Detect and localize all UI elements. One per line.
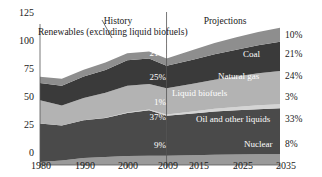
series-label-natural-gas: Natural gas <box>218 72 259 81</box>
right-pct-oil-and-other-liquids: 33% <box>285 115 302 125</box>
series-label-coal: Coal <box>243 50 260 59</box>
right-pct-natural-gas: 24% <box>285 72 302 82</box>
left-pct-nuclear: 9% <box>154 141 166 150</box>
x-tick-2015: 2015 <box>189 161 209 171</box>
right-pct-coal: 21% <box>285 50 302 60</box>
left-pct-natural-gas: 25% <box>150 73 167 82</box>
left-pct-oil-and-other-liquids: 37% <box>150 113 167 122</box>
series-label-nuclear: Nuclear <box>244 140 272 149</box>
renewables-callout-label: Renewables (excluding liquid biofuels) <box>38 27 188 37</box>
right-pct-nuclear: 8% <box>285 140 298 150</box>
x-tick-1990: 1990 <box>75 161 95 171</box>
right-pct-renewables: 10% <box>285 31 302 41</box>
x-tick-2009: 2009 <box>158 161 178 171</box>
left-pct-liquid-biofuels: 1% <box>154 98 166 107</box>
x-tick-1980: 1980 <box>31 161 51 171</box>
right-pct-liquid-biofuels: 3% <box>285 93 298 103</box>
left-pct-renewables: 7% <box>154 38 166 47</box>
series-label-liquid-biofuels: Liquid biofuels <box>172 89 227 98</box>
projections-label: Projections <box>204 16 247 26</box>
x-tick-2035: 2035 <box>276 161 296 171</box>
energy-consumption-stacked-area-chart: 125 100 75 50 25 0 1980 1990 2000 2009 2… <box>0 0 322 177</box>
history-label: History <box>104 16 133 26</box>
x-tick-2025: 2025 <box>233 161 253 171</box>
left-pct-coal: 21% <box>150 49 167 58</box>
x-tick-2000: 2000 <box>118 161 138 171</box>
series-label-oil-and-other-liquids: Oil and other liquids <box>196 115 270 124</box>
